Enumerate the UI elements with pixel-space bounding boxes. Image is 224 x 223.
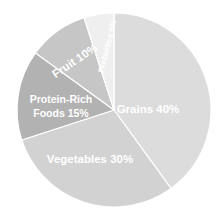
pie-chart-svg: Grains 40%Vegetables 30%Protein-RichFood… <box>0 0 224 223</box>
pie-chart-figure: Grains 40%Vegetables 30%Protein-RichFood… <box>0 0 224 223</box>
pie-slice-label-grains: Grains 40% <box>117 103 180 115</box>
pie-slice-label-protein-rich-foods-line1: Protein-Rich <box>30 93 92 105</box>
pie-slice-label-protein-rich-foods-line2: Foods 15% <box>33 107 89 119</box>
pie-slice-label-vegetables: Vegetables 30% <box>47 153 133 165</box>
